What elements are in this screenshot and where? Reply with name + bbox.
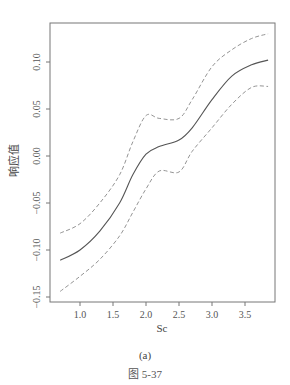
- y-tick-label: 0.00: [31, 147, 42, 165]
- subfigure-label: (a): [0, 349, 290, 361]
- y-axis: 0.100.050.00−0.05−0.10−0.15: [31, 53, 50, 308]
- y-tick-label: 0.05: [31, 100, 42, 118]
- series-lower-line: [60, 86, 268, 292]
- plot-frame: [50, 23, 275, 302]
- y-tick-label: 0.10: [31, 53, 42, 71]
- y-tick-label: −0.15: [31, 285, 42, 308]
- x-axis: 1.01.52.02.53.03.5: [74, 302, 252, 320]
- x-tick-label: 1.0: [74, 309, 87, 320]
- series-group: [60, 34, 268, 292]
- series-fit-line: [60, 60, 268, 260]
- chart-area: 0.100.050.00−0.05−0.10−0.15 1.01.52.02.5…: [0, 0, 290, 340]
- x-tick-label: 1.5: [107, 309, 120, 320]
- figure-caption: 图 5-37: [0, 365, 290, 381]
- x-tick-label: 3.5: [239, 309, 252, 320]
- y-axis-label: 响应值: [7, 144, 20, 177]
- x-tick-label: 3.0: [206, 309, 219, 320]
- series-upper-line: [60, 34, 268, 233]
- y-tick-label: −0.05: [31, 191, 42, 214]
- x-tick-label: 2.0: [140, 309, 153, 320]
- y-tick-label: −0.10: [31, 238, 42, 261]
- x-axis-label: Sc: [157, 322, 168, 334]
- x-tick-label: 2.5: [173, 309, 186, 320]
